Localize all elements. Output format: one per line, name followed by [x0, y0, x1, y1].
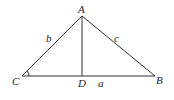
vertex-label-d: D — [77, 77, 86, 89]
vertex-label-a: A — [77, 3, 85, 15]
side-ac — [22, 16, 82, 76]
vertex-label-b: B — [156, 74, 163, 86]
side-label-a: a — [98, 77, 104, 89]
side-label-c: c — [114, 32, 119, 44]
triangle-diagram: A C D B b c a — [0, 0, 174, 100]
vertex-label-c: C — [12, 75, 20, 87]
angle-c-arc — [27, 71, 29, 76]
side-ab — [82, 16, 155, 76]
side-label-b: b — [46, 32, 52, 44]
